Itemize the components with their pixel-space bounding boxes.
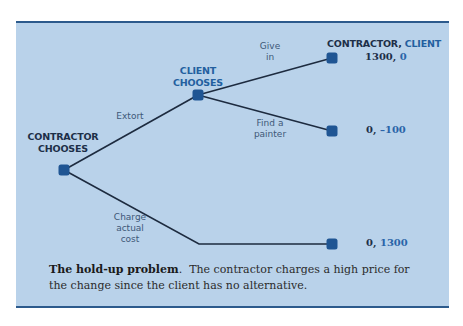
find-line1: Find a: [245, 118, 295, 129]
payoff-client-value: 0: [400, 51, 407, 62]
figure-caption: The hold-up problem. The contractor char…: [49, 262, 429, 294]
contractor-label-line2: CHOOSES: [18, 143, 108, 155]
branch-label-extort: Extort: [110, 110, 150, 122]
terminal-node-give-in: [327, 53, 338, 64]
payoff-find-painter: 0, –100: [366, 124, 406, 135]
give-line1: Give: [250, 41, 290, 52]
contractor-decision-node: [59, 165, 70, 176]
charge-line2: actual: [105, 223, 155, 234]
caption-title-suffix: .: [179, 263, 183, 276]
give-line2: in: [250, 52, 290, 63]
contractor-label-line1: CONTRACTOR: [18, 131, 108, 143]
terminal-node-actual-cost: [327, 239, 338, 250]
contractor-node-label: CONTRACTOR CHOOSES: [18, 131, 108, 155]
client-label-line2: CHOOSES: [168, 77, 228, 89]
terminal-node-find-painter: [327, 126, 338, 137]
payoff-client-value: 1300: [380, 237, 408, 248]
payoff-give-in: 1300, 0: [365, 51, 407, 62]
branch-label-give-in: Give in: [250, 41, 290, 63]
payoff-contractor-value: 0,: [366, 237, 376, 248]
caption-title: The hold-up problem: [49, 263, 179, 276]
payoff-header-contractor: CONTRACTOR,: [327, 38, 402, 49]
payoff-header-client: CLIENT: [405, 38, 441, 49]
payoff-header: CONTRACTOR, CLIENT: [327, 38, 441, 49]
charge-line1: Charge: [105, 212, 155, 223]
branch-label-charge-actual-cost: Charge actual cost: [105, 212, 155, 245]
payoff-actual-cost: 0, 1300: [366, 237, 408, 248]
client-node-label: CLIENT CHOOSES: [168, 65, 228, 89]
payoff-contractor-value: 0,: [366, 124, 376, 135]
charge-line3: cost: [105, 234, 155, 245]
client-decision-node: [193, 90, 204, 101]
find-line2: painter: [245, 129, 295, 140]
branch-label-find-painter: Find a painter: [245, 118, 295, 140]
payoff-client-value: –100: [380, 124, 406, 135]
payoff-contractor-value: 1300,: [365, 51, 396, 62]
client-label-line1: CLIENT: [168, 65, 228, 77]
